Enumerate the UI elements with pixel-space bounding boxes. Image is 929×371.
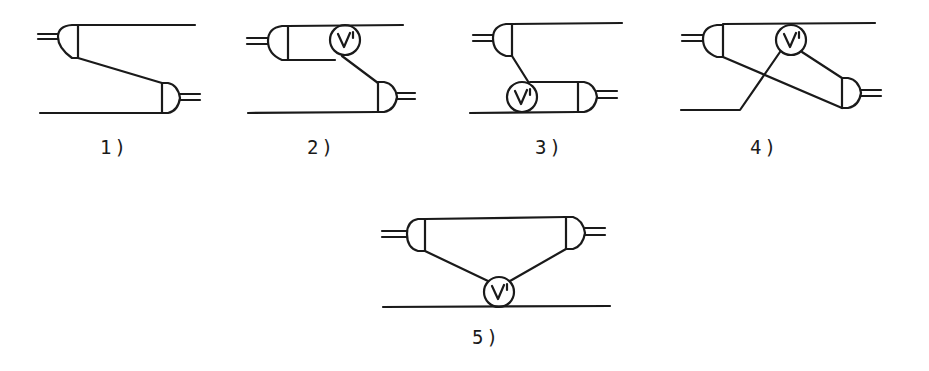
lamp-left-icon [247,26,288,60]
connecting-wire [512,56,529,83]
lamp-left-icon [38,25,78,58]
diagram-2 [247,25,415,113]
left-wire [425,251,488,281]
voltmeter-icon [776,25,806,55]
lamp-right-icon [578,82,617,112]
lamp-left-icon [682,25,723,57]
diagram-label-1: 1) [100,138,129,157]
bottom-rail [248,112,378,113]
lamp-right-icon [842,78,881,108]
voltmeter-to-lamp-wire [802,52,842,78]
bottom-rail [383,306,610,307]
diagram-4 [681,23,881,110]
bottom-rail [470,112,578,113]
lamp-right-icon [566,217,605,249]
cross-wire-lamp [723,57,842,108]
diagram-label-2: 2) [307,138,336,157]
diagram-label-3: 3) [535,138,564,157]
lamp-right-icon [162,83,200,113]
connecting-wire [78,58,162,83]
voltmeter-icon [330,25,360,55]
diagram-1 [38,25,200,113]
lamp-right-icon [378,82,415,112]
connecting-wire [342,56,378,83]
lamp-left-icon [382,219,425,251]
right-wire [510,249,566,281]
diagram-label-5: 5) [472,328,501,347]
top-rail [425,217,566,219]
diagram-5 [382,217,610,307]
voltmeter-icon [507,82,537,112]
top-rail [723,23,875,24]
lamp-left-icon [473,24,512,56]
diagram-label-4: 4) [750,138,779,157]
diagram-3 [470,23,622,113]
top-rail [512,23,622,24]
voltmeter-icon [484,277,514,307]
